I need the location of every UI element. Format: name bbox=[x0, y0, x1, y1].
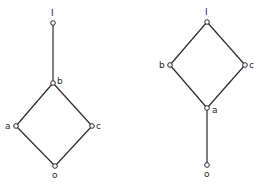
node-c bbox=[243, 63, 248, 68]
hasse-diagrams: Ibaco Ibcao bbox=[0, 0, 263, 187]
edge-b-a bbox=[16, 83, 53, 126]
node-a bbox=[205, 106, 210, 111]
left-lattice-diagram: Ibaco bbox=[5, 8, 101, 180]
node-b bbox=[51, 81, 56, 86]
node-label-0: o bbox=[204, 169, 210, 179]
edge-1-c bbox=[207, 22, 245, 65]
node-label-c: c bbox=[96, 121, 101, 131]
edge-c-a bbox=[207, 65, 245, 108]
node-a bbox=[14, 124, 19, 129]
node-label-1: I bbox=[51, 8, 54, 18]
node-label-a: a bbox=[212, 105, 218, 115]
node-1 bbox=[51, 21, 56, 26]
node-1 bbox=[205, 20, 210, 25]
edge-a-0 bbox=[16, 126, 55, 166]
node-label-b: b bbox=[159, 60, 165, 70]
node-label-c: c bbox=[249, 60, 254, 70]
edge-1-b bbox=[170, 22, 207, 65]
node-label-b: b bbox=[57, 76, 63, 86]
node-c bbox=[90, 124, 95, 129]
right-lattice-diagram: Ibcao bbox=[159, 7, 254, 179]
node-0 bbox=[205, 163, 210, 168]
node-label-0: o bbox=[52, 170, 58, 180]
node-label-a: a bbox=[5, 121, 11, 131]
edge-c-0 bbox=[55, 126, 92, 166]
node-b bbox=[168, 63, 173, 68]
edge-b-a bbox=[170, 65, 207, 108]
node-label-1: I bbox=[205, 7, 208, 17]
edge-b-c bbox=[53, 83, 92, 126]
node-0 bbox=[53, 164, 58, 169]
